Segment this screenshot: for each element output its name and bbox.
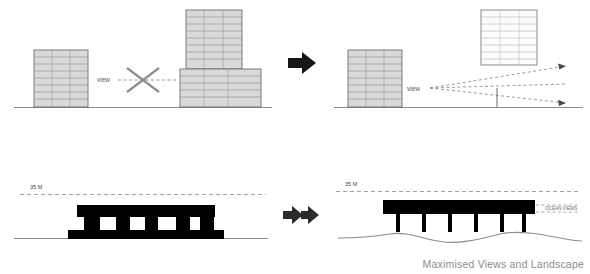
diagram-caption: Maximised Views and Landscape xyxy=(423,258,584,270)
ground-line-bottom-right xyxy=(338,232,582,242)
diagram-canvas: view xyxy=(0,0,590,274)
building-right-podium xyxy=(180,69,261,107)
panel-bottom-right: 35 M OCEAN VIEWS xyxy=(336,181,582,242)
panel-top-right: view xyxy=(334,10,583,108)
view-label-right: view xyxy=(407,85,420,92)
height-label-left: 35 M xyxy=(30,184,43,190)
silhouette-dense xyxy=(68,205,224,239)
building-left-low-after xyxy=(348,50,402,107)
arrow-right-top xyxy=(288,52,316,74)
arrow-right-bottom xyxy=(283,206,319,224)
building-left-low xyxy=(34,50,88,107)
panel-top-left: view xyxy=(14,10,272,108)
building-lifted-tower xyxy=(481,10,537,65)
silhouette-elevated-slab xyxy=(383,200,535,232)
panel-bottom-left: 35 M xyxy=(14,184,268,239)
sightlines-open xyxy=(430,64,566,107)
view-label-left: view xyxy=(97,76,110,83)
height-label-right: 35 M xyxy=(345,181,358,187)
ocean-views-label: OCEAN VIEWS xyxy=(545,206,577,211)
building-right-tower xyxy=(186,10,242,69)
